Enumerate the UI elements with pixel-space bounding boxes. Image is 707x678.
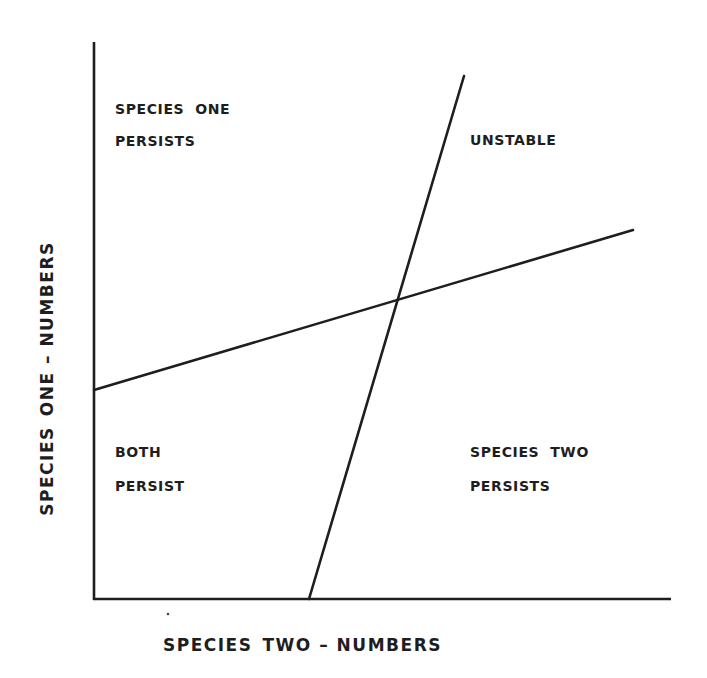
region-bottom-left-line1: BOTH: [115, 445, 185, 459]
y-axis-title-part2: ONE – NUMBERS: [37, 241, 57, 416]
species-two-isocline: [309, 76, 464, 599]
region-bottom-right-label: SPECIES TWO PERSISTS: [470, 445, 589, 493]
region-top-left-line1: SPECIES ONE: [115, 102, 230, 116]
region-bottom-right-line1: SPECIES TWO: [470, 445, 589, 459]
x-axis-title-part1: SPECIES: [163, 635, 252, 655]
region-top-right-line1: UNSTABLE: [470, 133, 556, 147]
scan-speck: [167, 613, 170, 616]
region-top-right-label: UNSTABLE: [470, 133, 556, 147]
y-axis-title-part1: SPECIES: [37, 426, 57, 515]
diagram-canvas: [0, 0, 707, 678]
species-one-isocline: [94, 230, 633, 390]
region-bottom-left-line2: PERSIST: [115, 479, 185, 493]
region-bottom-right-line2: PERSISTS: [470, 479, 589, 493]
y-axis-title: SPECIESONE – NUMBERS: [39, 229, 56, 529]
region-top-left-line2: PERSISTS: [115, 134, 230, 148]
x-axis-title-part2: TWO – NUMBERS: [262, 635, 442, 655]
region-top-left-label: SPECIES ONE PERSISTS: [115, 102, 230, 148]
region-bottom-left-label: BOTH PERSIST: [115, 445, 185, 493]
x-axis-title: SPECIESTWO – NUMBERS: [163, 637, 442, 654]
